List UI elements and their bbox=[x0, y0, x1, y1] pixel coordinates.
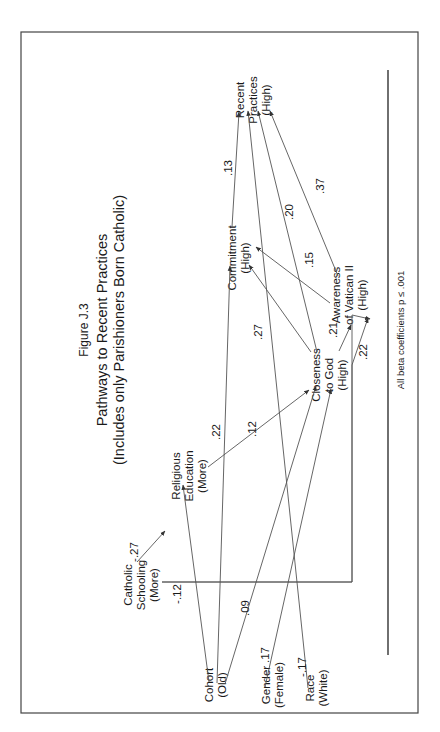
svg-text:(High): (High) bbox=[336, 359, 348, 390]
svg-text:(Old): (Old) bbox=[216, 672, 228, 698]
svg-text:(High): (High) bbox=[356, 279, 368, 310]
path-re-cl bbox=[208, 390, 309, 467]
path-ge-cl bbox=[265, 389, 331, 687]
coef-aw-cm: .15 bbox=[303, 252, 315, 268]
svg-text:(White): (White) bbox=[317, 669, 329, 706]
svg-text:Schooling: Schooling bbox=[135, 560, 147, 611]
node-gender: Gender (Female) bbox=[260, 662, 285, 708]
path-ra-rp bbox=[248, 111, 308, 688]
node-awareness-vatican-ii: Awareness of Vatican II (High) bbox=[330, 265, 368, 325]
svg-text:of Vatican II: of Vatican II bbox=[343, 265, 355, 325]
node-recent-practices: Recent Practices (High) bbox=[234, 76, 272, 124]
coef-cl-rp: .20 bbox=[283, 204, 295, 220]
path-cl-aw bbox=[339, 325, 351, 351]
svg-text:Recent: Recent bbox=[234, 81, 246, 118]
svg-text:Race: Race bbox=[304, 675, 316, 702]
node-cohort: Cohort (Old) bbox=[203, 667, 228, 702]
svg-text:Closeness: Closeness bbox=[310, 348, 322, 402]
node-catholic-schooling: Catholic Schooling (More) bbox=[122, 560, 160, 611]
footnote: All beta coefficients p ≤ .001 bbox=[395, 271, 406, 390]
path-co-re bbox=[183, 485, 209, 682]
coef-cl-aw: .21 bbox=[327, 322, 339, 338]
figure-subtitle: (Includes only Parishioners Born Catholi… bbox=[111, 195, 127, 465]
svg-text:Commitment: Commitment bbox=[226, 225, 238, 291]
coef-ge-cl: .17 bbox=[259, 647, 271, 663]
coef-cs-re: -.27 bbox=[128, 542, 140, 562]
svg-text:Religious: Religious bbox=[170, 452, 182, 500]
path-cs-aw bbox=[162, 315, 370, 582]
coef-co-cl: .09 bbox=[239, 600, 251, 616]
svg-text:to God: to God bbox=[323, 358, 335, 393]
coef-aw-rp: .37 bbox=[314, 178, 326, 194]
node-closeness-to-god: Closeness to God (High) bbox=[310, 348, 348, 402]
coef-co-cm: .22 bbox=[210, 424, 222, 440]
coef-cl-cm: .27 bbox=[252, 324, 264, 340]
svg-text:Awareness: Awareness bbox=[330, 266, 342, 323]
coef-ra-rp: -.17 bbox=[296, 657, 308, 677]
coef-re-cl: .12 bbox=[246, 421, 258, 437]
svg-text:Catholic: Catholic bbox=[122, 564, 134, 606]
svg-text:Cohort: Cohort bbox=[203, 667, 215, 702]
coef-cm-rp: .13 bbox=[222, 160, 234, 176]
svg-text:(More): (More) bbox=[196, 459, 208, 493]
svg-text:(High): (High) bbox=[239, 242, 251, 273]
path-co-cm bbox=[217, 266, 230, 683]
path-diagram: Figure J.3 Pathways to Recent Practices … bbox=[0, 0, 440, 732]
coef-co-re: -.12 bbox=[171, 584, 183, 604]
svg-text:Education: Education bbox=[183, 450, 195, 501]
node-religious-education: Religious Education (More) bbox=[170, 450, 208, 501]
svg-text:(Female): (Female) bbox=[273, 662, 285, 708]
svg-text:Gender: Gender bbox=[260, 666, 272, 705]
path-aw-rp bbox=[270, 111, 338, 276]
path-cl-rp bbox=[258, 111, 317, 352]
path-cs-re bbox=[137, 531, 165, 562]
svg-text:(More): (More) bbox=[148, 568, 160, 602]
figure-label: Figure J.3 bbox=[77, 303, 91, 357]
path-co-cl bbox=[225, 386, 316, 684]
coef-cs-aw: .22 bbox=[357, 344, 369, 360]
figure-title: Pathways to Recent Practices bbox=[94, 234, 110, 427]
